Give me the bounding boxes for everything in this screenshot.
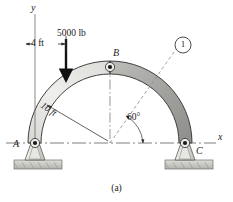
arch-diagram-svg: [0, 0, 233, 202]
angle-label-60deg: 60°: [127, 113, 140, 123]
pin-marker-C: [180, 138, 189, 147]
point-label-a: A: [13, 139, 19, 149]
callout-label-1: 1: [176, 40, 190, 49]
support-base-C: [165, 160, 213, 169]
pin-marker-B: [105, 62, 114, 71]
figure-caption: (a): [0, 184, 233, 194]
pin-marker-A: [30, 138, 39, 147]
arch-segment-AB: [28, 61, 110, 143]
support-base-A: [14, 160, 62, 169]
arch-segment-BC: [110, 61, 192, 143]
x-axis-label: x: [218, 132, 222, 142]
figure-container: y x A B C 5000 lb 4 ft 10 ft 60° 1 (a): [0, 0, 233, 202]
y-axis-label: y: [31, 3, 35, 13]
dimension-label-4ft: 4 ft: [31, 39, 44, 49]
point-label-b: B: [113, 48, 119, 58]
load-magnitude-label: 5000 lb: [57, 29, 86, 39]
point-label-c: C: [196, 146, 203, 156]
